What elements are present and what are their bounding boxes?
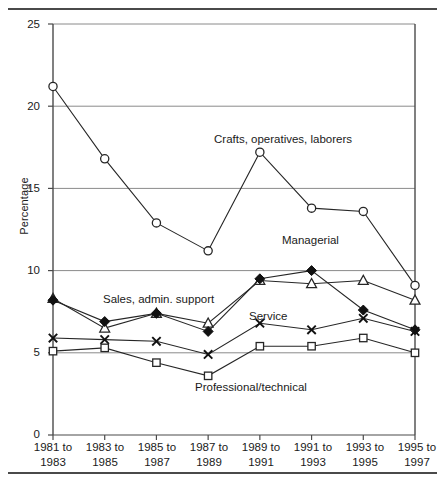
series-annotation-managerial: Managerial xyxy=(282,234,339,246)
marker-filled-diamond xyxy=(48,295,58,305)
marker-open-circle xyxy=(411,281,419,289)
series-annotation-service: Service xyxy=(249,310,287,322)
marker-filled-diamond xyxy=(410,325,420,335)
series-4 xyxy=(49,334,418,379)
marker-open-square xyxy=(308,343,315,350)
marker-open-circle xyxy=(307,204,315,212)
series-annotation-crafts: Crafts, operatives, laborers xyxy=(214,133,352,145)
marker-open-square xyxy=(256,343,263,350)
series-annotation-professional: Professional/technical xyxy=(195,381,307,393)
marker-open-square xyxy=(204,372,211,379)
marker-open-circle xyxy=(256,148,264,156)
x-tick-label-7: 1995 to 1997 xyxy=(385,440,445,470)
series-layer xyxy=(48,82,420,379)
axes xyxy=(53,24,415,435)
figure: Percentage 25 20 15 10 5 0 1981 to 1983 … xyxy=(0,0,445,484)
marker-open-circle xyxy=(49,82,57,90)
marker-open-triangle xyxy=(358,275,368,284)
x-tick-line1: 1995 to xyxy=(385,440,445,455)
marker-open-circle xyxy=(101,155,109,163)
marker-open-square xyxy=(411,349,418,356)
marker-open-square xyxy=(153,359,160,366)
marker-open-circle xyxy=(152,219,160,227)
marker-open-triangle xyxy=(410,295,420,304)
x-tick-line2: 1997 xyxy=(385,455,445,470)
series-annotation-sales: Sales, admin. support xyxy=(103,293,214,305)
marker-open-circle xyxy=(204,247,212,255)
marker-cross-x xyxy=(204,350,212,358)
marker-open-square xyxy=(101,344,108,351)
marker-open-square xyxy=(49,347,56,354)
marker-filled-diamond xyxy=(307,266,317,276)
marker-open-circle xyxy=(359,207,367,215)
series-0 xyxy=(49,82,419,289)
marker-filled-diamond xyxy=(100,317,110,327)
marker-open-square xyxy=(360,334,367,341)
series-line xyxy=(53,86,415,285)
gridlines xyxy=(48,24,415,435)
plot-area xyxy=(0,0,445,484)
